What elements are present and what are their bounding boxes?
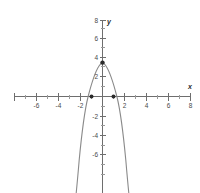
x-tick-label-neg2: -2 <box>78 102 84 109</box>
x-tick-label-neg6: -6 <box>34 102 40 109</box>
root-left-point <box>90 95 94 99</box>
y-tick-label-8: 8 <box>94 17 98 24</box>
x-tick-label-2: 2 <box>123 102 127 109</box>
x-tick-label-4: 4 <box>145 102 149 109</box>
y-tick-label-2: 2 <box>94 73 98 80</box>
x-tick-label-8: 8 <box>189 102 193 109</box>
x-tick-label-6: 6 <box>167 102 171 109</box>
y-tick-label-4: 4 <box>94 54 98 61</box>
y-axis-label: y <box>106 18 112 26</box>
x-axis-label: x <box>187 83 193 90</box>
x-tick-label-neg4: -4 <box>56 102 62 109</box>
root-right-point <box>112 95 116 99</box>
plot-area: -2 -4 -6 2 4 6 8 8 6 4 2 -2 -4 -6 y x <box>0 0 200 193</box>
y-tick-label-6: 6 <box>94 35 98 42</box>
y-tick-label-neg6: -6 <box>92 151 98 158</box>
vertex-point <box>100 60 104 64</box>
y-tick-label-neg4: -4 <box>92 132 98 139</box>
y-tick-label-neg2: -2 <box>92 113 98 120</box>
coordinate-graph: -2 -4 -6 2 4 6 8 8 6 4 2 -2 -4 -6 y x <box>0 0 200 193</box>
